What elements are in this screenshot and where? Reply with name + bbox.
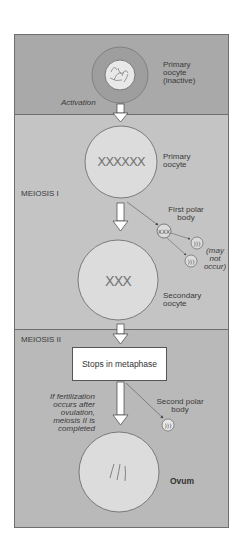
meiosis-2-entry-arrow: [113, 324, 128, 344]
fertilization-note: If fertilization occurs after ovulation,…: [44, 393, 95, 433]
svg-text:))): ))): [187, 258, 194, 265]
first-polar-body-label: First polar body: [156, 206, 216, 222]
first-polar-body-pointer: [127, 202, 158, 225]
svg-text:))): ))): [193, 240, 200, 247]
label-line: occur): [200, 263, 230, 271]
primary-oocyte-inactive-label: Primary oocyte (inactive): [163, 61, 195, 85]
first-polar-body: XXX: [157, 224, 171, 238]
label-line: body: [150, 406, 210, 414]
primary-oocyte-inactive-cell: [92, 47, 148, 103]
secondary-oocyte-label: Secondary oocyte: [163, 292, 201, 308]
primary-oocyte-cell: XXXXXX: [85, 126, 157, 198]
meiosis-1-arrow: [113, 203, 128, 231]
ovum-label: Ovum: [170, 477, 194, 485]
meiosis-2-arrow: [113, 382, 128, 425]
stops-in-metaphase-box: Stops in metaphase: [72, 347, 167, 381]
svg-text:XXX: XXX: [158, 228, 170, 235]
svg-text:XXXXXX: XXXXXX: [97, 154, 146, 169]
label-line: oocyte: [163, 300, 201, 308]
ovum-cell: [79, 432, 159, 512]
diagram-graphics: XXXXXX XXX ))) ))) XXX ))): [0, 0, 241, 556]
label-line: (inactive): [163, 77, 195, 85]
meiosis-1-label: MEIOSIS I: [21, 190, 59, 198]
primary-oocyte-label: Primary oocyte: [163, 153, 191, 169]
label-line: oocyte: [163, 161, 191, 169]
meiosis-2-label: MEIOSIS II: [21, 336, 61, 344]
label-line: body: [156, 214, 216, 222]
stops-in-metaphase-text: Stops in metaphase: [82, 359, 157, 369]
label-line: completed: [44, 425, 95, 433]
svg-text:XXX: XXX: [105, 273, 132, 289]
activation-label: Activation: [61, 99, 96, 107]
first-polar-body-division-b: ))): [185, 255, 197, 267]
second-polar-body: ))): [162, 419, 174, 431]
may-not-occur-label: (may not occur): [200, 247, 230, 271]
second-polar-body-label: Second polar body: [150, 398, 210, 414]
secondary-oocyte-cell: XXX: [78, 240, 158, 320]
activation-arrow: [113, 104, 128, 122]
svg-text:))): ))): [164, 422, 171, 429]
